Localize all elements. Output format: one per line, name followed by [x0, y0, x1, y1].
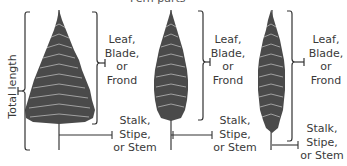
- fern-2-stipe-label: Stalk, Stipe, or Stem: [213, 114, 257, 155]
- fern-2-stipe-pointer: [171, 131, 212, 139]
- fern-3-stipe-pointer: [272, 141, 298, 149]
- fern-3: [258, 10, 285, 150]
- fern-1-stipe-pointer: [59, 131, 112, 139]
- total-length-bracket: [18, 12, 30, 150]
- fern-3-blade-label: Leaf, Blade, or Frond: [305, 33, 347, 87]
- fern-1-blade-label: Leaf, Blade, or Frond: [102, 33, 142, 87]
- fern-2-blade-label: Leaf, Blade, or Frond: [208, 33, 248, 87]
- fern-2: [154, 10, 188, 150]
- fern-3-stipe-label: Stalk, Stipe, or Stem: [300, 122, 344, 163]
- fern-1-stipe-label: Stalk, Stipe, or Stem: [113, 114, 157, 155]
- total-length-label: Total length: [6, 47, 19, 127]
- fern-1: [25, 10, 95, 150]
- title-partial: Fern parts: [130, 0, 186, 5]
- fern-diagram: [0, 0, 347, 166]
